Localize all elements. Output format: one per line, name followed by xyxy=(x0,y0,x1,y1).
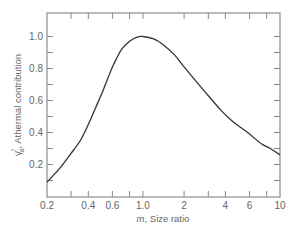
x-tick-label: 2 xyxy=(181,200,187,211)
data-curve xyxy=(47,36,280,182)
x-tick-label: 0.4 xyxy=(81,200,95,211)
x-tick-label: 0.2 xyxy=(40,200,54,211)
plot-frame xyxy=(47,13,280,197)
x-tick-label: 0.6 xyxy=(105,200,119,211)
y-axis-tick-labels: 0.20.40.60.81.0 xyxy=(29,31,43,170)
y-axis-ticks xyxy=(47,37,280,181)
x-axis-label: m, Size ratio xyxy=(137,213,190,224)
y-tick-label: 0.6 xyxy=(29,95,43,106)
y-tick-label: 1.0 xyxy=(29,31,43,42)
x-tick-label: 6 xyxy=(247,200,253,211)
x-axis-ticks xyxy=(71,13,267,197)
y-axis-label: γ̄°a, Athermal contribution xyxy=(11,54,25,156)
y-tick-label: 0.2 xyxy=(29,159,43,170)
x-axis-tick-labels: 0.20.40.61.024610 xyxy=(40,200,286,211)
chart: 0.20.40.61.024610 0.20.40.60.81.0 m, Siz… xyxy=(0,0,299,228)
y-tick-label: 0.4 xyxy=(29,127,43,138)
x-tick-label: 10 xyxy=(274,200,286,211)
y-tick-label: 0.8 xyxy=(29,63,43,74)
x-tick-label: 4 xyxy=(223,200,229,211)
x-tick-label: 1.0 xyxy=(136,200,150,211)
